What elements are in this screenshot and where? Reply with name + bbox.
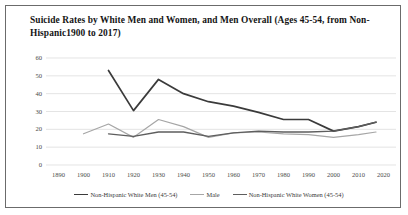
legend-swatch-icon (74, 194, 88, 195)
legend-swatch-icon (233, 194, 247, 195)
series-line (109, 122, 377, 136)
plot-area (46, 58, 396, 165)
legend-item[interactable]: Non-Hispanic White Men (45-54) (74, 191, 177, 198)
y-tick-label: 20 (18, 125, 42, 132)
chart-legend: Non-Hispanic White Men (45-54)MaleNon-Hi… (34, 191, 384, 198)
legend-label: Male (206, 191, 219, 198)
series-line (109, 70, 377, 131)
chart-title: Suicide Rates by White Men and Women, an… (30, 14, 386, 39)
y-tick-label: 50 (18, 72, 42, 79)
series-lines (46, 58, 396, 165)
y-tick-label: 60 (18, 54, 42, 61)
y-tick-label: 0 (18, 161, 42, 168)
legend-swatch-icon (190, 194, 204, 195)
y-tick-label: 10 (18, 143, 42, 150)
legend-item[interactable]: Male (190, 191, 219, 198)
y-tick-label: 30 (18, 108, 42, 115)
x-tick-label: 2020 (369, 171, 399, 178)
legend-item[interactable]: Non-Hispanic White Women (45-54) (233, 191, 344, 198)
series-line (84, 120, 377, 138)
y-tick-label: 40 (18, 90, 42, 97)
legend-label: Non-Hispanic White Men (45-54) (90, 191, 177, 198)
chart-figure: Suicide Rates by White Men and Women, an… (5, 5, 401, 208)
legend-label: Non-Hispanic White Women (45-54) (249, 191, 344, 198)
